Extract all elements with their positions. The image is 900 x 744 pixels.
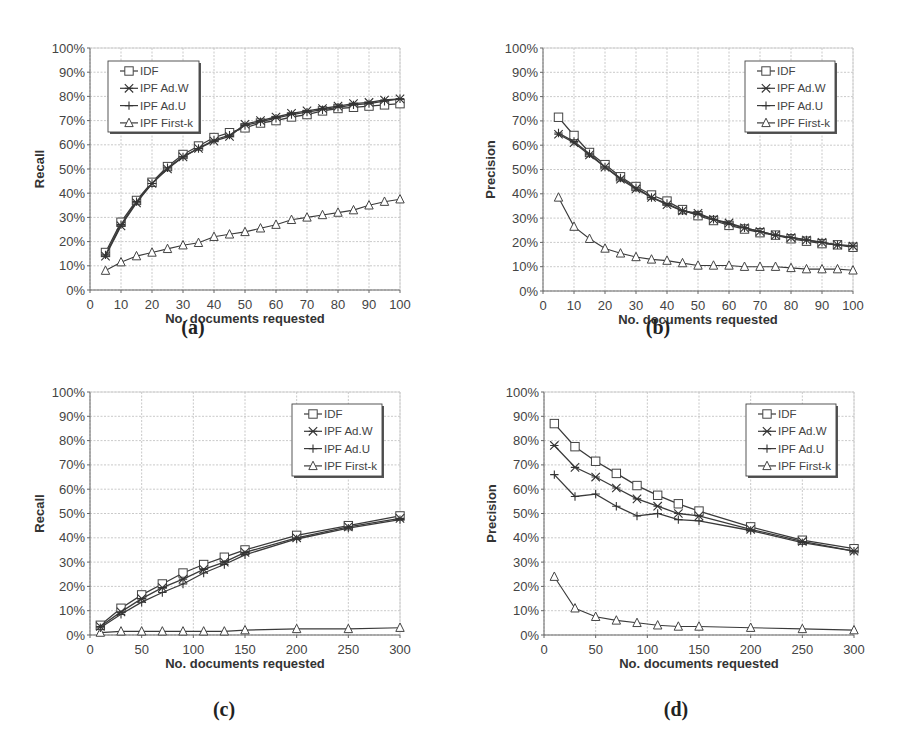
square-legend-icon <box>309 410 317 418</box>
y-axis-title: Precision <box>484 484 499 543</box>
x-tick-label: 100 <box>636 642 658 657</box>
x-axis-title: No. documents requested <box>165 656 325 671</box>
x-tick-label: 10 <box>114 297 128 312</box>
triangle-marker-icon <box>601 244 609 252</box>
series-ipf-ad-u <box>96 515 404 632</box>
legend-label: IPF First-k <box>777 117 830 129</box>
y-tick-label: 20% <box>513 579 539 594</box>
y-tick-label: 40% <box>59 186 85 201</box>
x-tick-label: 70 <box>753 298 767 313</box>
y-tick-label: 70% <box>59 113 85 128</box>
chart-panel-b: 0%10%20%30%40%50%60%70%80%90%100%0102030… <box>450 0 900 372</box>
recall-chart-c: 0%10%20%30%40%50%60%70%80%90%100%0501001… <box>0 372 450 744</box>
x-marker-icon <box>612 484 620 492</box>
chart-panel-c: 0%10%20%30%40%50%60%70%80%90%100%0501001… <box>0 372 450 744</box>
x-tick-label: 30 <box>629 298 643 313</box>
square-marker-icon <box>199 560 207 568</box>
legend-label: IPF Ad.W <box>140 82 189 94</box>
x-tick-label: 40 <box>660 298 674 313</box>
x-tick-label: 30 <box>176 297 190 312</box>
y-tick-label: 0% <box>520 628 539 643</box>
y-tick-label: 70% <box>59 457 85 472</box>
x-tick-label: 90 <box>362 297 376 312</box>
y-tick-label: 80% <box>512 89 538 104</box>
legend-label: IPF Ad.W <box>324 425 373 437</box>
x-marker-icon <box>653 502 661 510</box>
legend-item: IDF <box>757 65 796 77</box>
legend: IDFIPF Ad.WIPF Ad.UIPF First-k <box>108 61 201 134</box>
legend-label: IPF Ad.U <box>777 100 823 112</box>
series-ipf-ad-w <box>554 130 857 250</box>
triangle-marker-icon <box>117 257 125 265</box>
square-marker-icon <box>550 419 558 427</box>
triangle-marker-icon <box>585 234 593 242</box>
chart-panel-a: 0%10%20%30%40%50%60%70%80%90%100%0102030… <box>0 0 450 372</box>
x-axis-title: No. documents requested <box>619 656 779 671</box>
triangle-marker-icon <box>571 604 579 612</box>
y-tick-label: 80% <box>59 433 85 448</box>
plus-marker-icon <box>695 517 703 525</box>
y-tick-label: 50% <box>512 162 538 177</box>
square-marker-icon <box>554 113 562 121</box>
y-tick-label: 0% <box>66 628 85 643</box>
precision-chart-d: 0%10%20%30%40%50%60%70%80%90%100%0501001… <box>450 372 900 744</box>
x-tick-label: 20 <box>598 298 612 313</box>
x-tick-label: 200 <box>740 642 762 657</box>
y-tick-label: 10% <box>59 603 85 618</box>
legend-label: IPF First-k <box>140 117 193 129</box>
y-tick-label: 100% <box>52 385 86 400</box>
x-tick-label: 250 <box>791 642 813 657</box>
y-axis-title: Recall <box>32 494 47 532</box>
series-ipf-first-k <box>554 193 857 274</box>
square-legend-icon <box>125 67 133 75</box>
x-tick-label: 100 <box>182 642 204 657</box>
y-tick-label: 90% <box>512 65 538 80</box>
x-tick-label: 0 <box>540 642 547 657</box>
y-tick-label: 50% <box>59 506 85 521</box>
x-tick-label: 70 <box>300 297 314 312</box>
square-legend-icon <box>762 67 770 75</box>
x-tick-label: 80 <box>331 297 345 312</box>
x-tick-label: 100 <box>842 298 864 313</box>
legend: IDFIPF Ad.WIPF Ad.UIPF First-k <box>746 404 838 478</box>
y-tick-label: 0% <box>519 284 538 299</box>
y-tick-label: 10% <box>59 258 85 273</box>
legend-label: IPF First-k <box>324 460 377 472</box>
legend-item: IDF <box>120 65 159 77</box>
legend-label: IDF <box>778 408 797 420</box>
y-tick-label: 40% <box>512 186 538 201</box>
triangle-marker-icon <box>396 195 404 203</box>
y-tick-label: 20% <box>59 579 85 594</box>
y-tick-label: 60% <box>513 482 539 497</box>
y-tick-label: 0% <box>66 283 85 298</box>
series-ipf-ad-u <box>554 129 857 250</box>
y-tick-label: 90% <box>59 65 85 80</box>
square-marker-icon <box>695 507 703 515</box>
x-tick-label: 60 <box>269 297 283 312</box>
y-axis-title: Recall <box>32 150 47 188</box>
y-tick-label: 60% <box>59 137 85 152</box>
x-tick-label: 20 <box>145 297 159 312</box>
plus-marker-icon <box>653 509 661 517</box>
y-tick-label: 40% <box>513 530 539 545</box>
series-idf <box>96 512 404 630</box>
y-tick-label: 20% <box>59 234 85 249</box>
legend: IDFIPF Ad.WIPF Ad.UIPF First-k <box>292 404 384 478</box>
square-marker-icon <box>571 442 579 450</box>
y-tick-label: 40% <box>59 530 85 545</box>
y-tick-label: 10% <box>512 259 538 274</box>
y-tick-label: 50% <box>59 162 85 177</box>
x-tick-label: 150 <box>234 642 256 657</box>
square-marker-icon <box>633 481 641 489</box>
legend-label: IPF Ad.U <box>778 443 824 455</box>
caption-c: (c) <box>194 698 254 721</box>
y-tick-label: 100% <box>506 385 540 400</box>
y-tick-label: 100% <box>505 41 539 56</box>
legend-label: IPF Ad.U <box>140 100 186 112</box>
x-tick-label: 50 <box>691 298 705 313</box>
y-tick-label: 80% <box>59 89 85 104</box>
caption-a: (a) <box>163 316 223 339</box>
y-tick-label: 60% <box>59 482 85 497</box>
series-ipf-ad-w <box>96 514 404 631</box>
recall-chart-a: 0%10%20%30%40%50%60%70%80%90%100%0102030… <box>0 0 450 372</box>
